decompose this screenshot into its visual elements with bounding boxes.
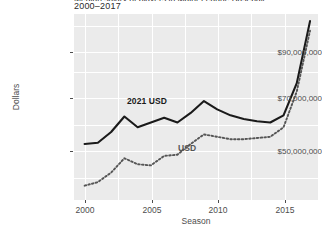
- x-tick-label-2010: 2010: [198, 205, 238, 215]
- y-tick-mark-90m: [70, 52, 73, 53]
- chart-subtitle: 2000–2017: [74, 1, 318, 11]
- y-tick-mark-70m: [70, 98, 73, 99]
- x-tick-label-2000: 2000: [65, 205, 105, 215]
- y-tick-label-90m: $90,000,000: [252, 48, 322, 57]
- x-tick-mark-2000: [85, 200, 86, 203]
- plot-panel: 2021 USD USD: [74, 14, 318, 200]
- x-tick-mark-2005: [152, 200, 153, 203]
- series-line-2021-usd: [85, 21, 310, 144]
- y-tick-label-70m: $70,000,000: [252, 94, 322, 103]
- y-axis-title: Dollars: [11, 67, 21, 127]
- x-tick-mark-2010: [218, 200, 219, 203]
- series-plot: [74, 14, 318, 200]
- chart-container: Median salary of players in Major League…: [0, 0, 322, 230]
- x-tick-label-2015: 2015: [265, 205, 305, 215]
- x-axis-title: Season: [74, 216, 318, 226]
- x-tick-mark-2015: [285, 200, 286, 203]
- y-tick-label-50m: $50,000,000: [252, 147, 322, 156]
- x-tick-label-2005: 2005: [132, 205, 172, 215]
- series-annotation-usd: USD: [178, 143, 196, 153]
- chart-title-block: Median salary of players in Major League…: [74, 0, 318, 11]
- series-annotation-2021-usd: 2021 USD: [127, 96, 167, 106]
- y-tick-mark-50m: [70, 151, 73, 152]
